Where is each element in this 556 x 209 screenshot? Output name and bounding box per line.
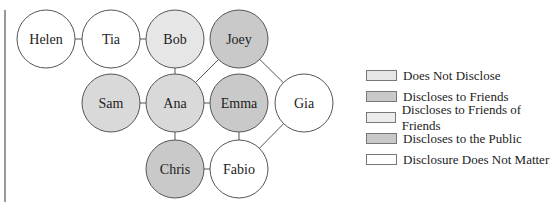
node-bob: Bob — [146, 10, 204, 68]
legend-item: Discloses to Friends of Friends — [366, 107, 556, 128]
svg-text:Bob: Bob — [163, 32, 186, 47]
svg-text:Joey: Joey — [226, 32, 252, 47]
node-sam: Sam — [82, 74, 140, 132]
node-joey: Joey — [210, 10, 268, 68]
legend-swatch — [366, 112, 396, 123]
node-chris: Chris — [146, 140, 204, 198]
node-fabio: Fabio — [210, 140, 268, 198]
node-gia: Gia — [275, 74, 333, 132]
svg-text:Gia: Gia — [294, 96, 315, 111]
svg-text:Sam: Sam — [99, 96, 124, 111]
svg-text:Tia: Tia — [102, 32, 121, 47]
legend: Does Not Disclose Discloses to Friends D… — [366, 65, 556, 170]
svg-text:Ana: Ana — [163, 96, 187, 111]
svg-text:Chris: Chris — [160, 162, 190, 177]
legend-item: Does Not Disclose — [366, 65, 556, 86]
node-ana: Ana — [146, 74, 204, 132]
node-helen: Helen — [17, 10, 75, 68]
svg-text:Helen: Helen — [29, 32, 62, 47]
legend-swatch — [366, 70, 397, 81]
legend-swatch — [366, 91, 397, 102]
legend-swatch — [366, 133, 397, 144]
node-tia: Tia — [82, 10, 140, 68]
svg-text:Emma: Emma — [221, 96, 258, 111]
legend-item: Disclosure Does Not Matter — [366, 149, 556, 170]
node-emma: Emma — [210, 74, 268, 132]
legend-swatch — [366, 154, 397, 165]
svg-text:Fabio: Fabio — [223, 162, 255, 177]
